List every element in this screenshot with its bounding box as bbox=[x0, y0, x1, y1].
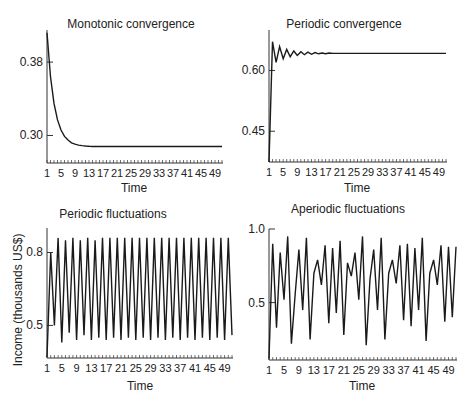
x-tick-label: 25 bbox=[348, 166, 360, 178]
x-tick-label: 9 bbox=[294, 166, 300, 178]
y-tick-label: 0.30 bbox=[20, 128, 44, 142]
x-tick-label: 1 bbox=[44, 362, 50, 374]
y-tick-label: 0.38 bbox=[20, 55, 44, 69]
x-axis-label: Time bbox=[127, 379, 154, 393]
x-tick-label: 37 bbox=[167, 167, 179, 179]
y-tick-label: 0.45 bbox=[242, 124, 266, 138]
x-tick-label: 45 bbox=[419, 166, 431, 178]
data-line bbox=[47, 238, 232, 357]
x-tick-label: 13 bbox=[83, 167, 95, 179]
chart-axes: 159131721252933374145490.300.38 bbox=[20, 30, 223, 179]
chart-panel-periodic-convergence: Periodic convergence 1591317212529333741… bbox=[242, 17, 447, 195]
y-tick-label: 0.5 bbox=[248, 296, 265, 310]
x-tick-label: 17 bbox=[320, 166, 332, 178]
x-tick-label: 9 bbox=[72, 167, 78, 179]
x-tick-label: 5 bbox=[58, 167, 64, 179]
x-tick-label: 21 bbox=[111, 167, 123, 179]
x-tick-label: 5 bbox=[281, 364, 287, 376]
y-tick-label: 0.5 bbox=[26, 318, 43, 332]
data-line bbox=[269, 236, 456, 358]
chart-title: Periodic convergence bbox=[286, 17, 402, 31]
x-tick-label: 25 bbox=[130, 362, 142, 374]
x-tick-label: 37 bbox=[174, 362, 186, 374]
x-tick-label: 1 bbox=[266, 166, 272, 178]
x-tick-label: 29 bbox=[368, 364, 380, 376]
x-tick-label: 21 bbox=[338, 364, 350, 376]
y-tick-label: 0.60 bbox=[242, 63, 266, 77]
x-tick-label: 49 bbox=[218, 362, 230, 374]
x-tick-label: 9 bbox=[74, 362, 80, 374]
x-tick-label: 21 bbox=[115, 362, 127, 374]
figure: Monotonic convergence 159131721252933374… bbox=[0, 0, 474, 405]
x-tick-label: 29 bbox=[144, 362, 156, 374]
x-axis-label: Time bbox=[349, 379, 376, 393]
x-tick-label: 41 bbox=[404, 166, 416, 178]
x-tick-label: 17 bbox=[100, 362, 112, 374]
y-axis-label: Income (thousands US$) bbox=[11, 234, 25, 367]
x-tick-label: 41 bbox=[412, 364, 424, 376]
y-tick-label: 0.8 bbox=[26, 245, 43, 259]
x-tick-label: 1 bbox=[266, 364, 272, 376]
x-tick-label: 37 bbox=[398, 364, 410, 376]
x-tick-label: 49 bbox=[209, 167, 221, 179]
chart-panel-aperiodic-fluctuations: Aperiodic fluctuations 15913172125293337… bbox=[248, 202, 457, 393]
chart-title: Periodic fluctuations bbox=[59, 207, 166, 221]
x-tick-label: 5 bbox=[280, 166, 286, 178]
chart-title: Monotonic convergence bbox=[67, 17, 195, 31]
chart-axes: 159131721252933374145490.51.0 bbox=[248, 222, 457, 376]
chart-panel-periodic-fluctuations: Periodic fluctuations 159131721252933374… bbox=[11, 207, 233, 393]
x-tick-label: 41 bbox=[189, 362, 201, 374]
x-axis-label: Time bbox=[121, 181, 148, 195]
x-tick-label: 5 bbox=[59, 362, 65, 374]
x-tick-label: 13 bbox=[85, 362, 97, 374]
x-tick-label: 33 bbox=[153, 167, 165, 179]
x-tick-label: 45 bbox=[195, 167, 207, 179]
x-axis-label: Time bbox=[344, 181, 371, 195]
x-tick-label: 29 bbox=[362, 166, 374, 178]
x-tick-label: 25 bbox=[353, 364, 365, 376]
x-tick-label: 49 bbox=[433, 166, 445, 178]
x-tick-label: 49 bbox=[442, 364, 454, 376]
x-tick-label: 33 bbox=[376, 166, 388, 178]
x-tick-label: 29 bbox=[139, 167, 151, 179]
data-line bbox=[269, 42, 446, 162]
x-tick-label: 33 bbox=[383, 364, 395, 376]
x-tick-label: 33 bbox=[159, 362, 171, 374]
data-line bbox=[47, 33, 222, 147]
x-tick-label: 21 bbox=[334, 166, 346, 178]
x-tick-label: 13 bbox=[308, 364, 320, 376]
x-tick-label: 41 bbox=[181, 167, 193, 179]
x-tick-label: 17 bbox=[323, 364, 335, 376]
x-tick-label: 17 bbox=[97, 167, 109, 179]
x-tick-label: 45 bbox=[204, 362, 216, 374]
x-tick-label: 13 bbox=[305, 166, 317, 178]
x-tick-label: 9 bbox=[296, 364, 302, 376]
chart-title: Aperiodic fluctuations bbox=[291, 202, 405, 216]
x-tick-label: 1 bbox=[44, 167, 50, 179]
y-tick-label: 1.0 bbox=[248, 222, 265, 236]
chart-panel-monotonic-convergence: Monotonic convergence 159131721252933374… bbox=[20, 17, 223, 195]
x-tick-label: 45 bbox=[427, 364, 439, 376]
x-tick-label: 37 bbox=[390, 166, 402, 178]
x-tick-label: 25 bbox=[125, 167, 137, 179]
